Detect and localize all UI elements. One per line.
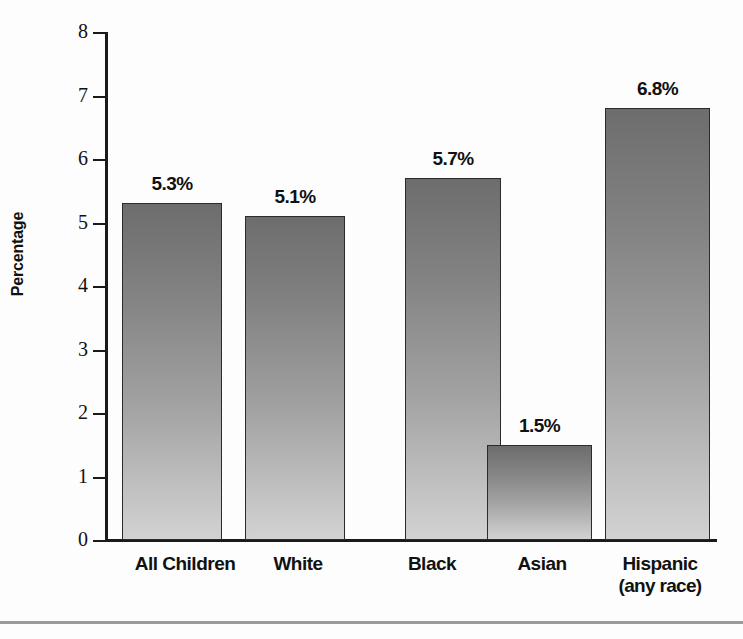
tick-mark (93, 286, 106, 288)
chart-page: 012345678 Percentage 5.3%5.1%5.7%1.5%6.8… (0, 0, 743, 639)
tick-label: 4 (52, 275, 88, 295)
tick-label: 7 (52, 85, 88, 105)
bottom-divider (0, 621, 743, 624)
y-axis-title: Percentage (9, 174, 27, 334)
tick-label: 6 (52, 148, 88, 168)
tick-mark (93, 350, 106, 352)
bar (487, 445, 592, 540)
bar (122, 203, 222, 540)
tick-label: 1 (52, 466, 88, 486)
bar-value-label: 5.3% (122, 173, 222, 195)
tick-label: 3 (52, 339, 88, 359)
x-axis-label: Asian (487, 553, 597, 575)
bar (245, 216, 345, 540)
bar (605, 108, 710, 540)
bar-value-label: 5.1% (245, 186, 345, 208)
x-axis-label: Black (372, 553, 492, 575)
tick-mark (93, 32, 106, 34)
bar-chart: 012345678 Percentage 5.3%5.1%5.7%1.5%6.8… (0, 0, 743, 600)
tick-mark (93, 477, 106, 479)
bar-value-label: 1.5% (487, 415, 592, 437)
tick-mark (93, 223, 106, 225)
x-axis-label: Hispanic(any race) (600, 553, 720, 598)
tick-label: 5 (52, 212, 88, 232)
tick-label: 0 (52, 529, 88, 549)
tick-mark (93, 540, 106, 542)
x-axis-label-subline: (any race) (600, 575, 720, 597)
tick-label: 8 (52, 21, 88, 41)
tick-label: 2 (52, 402, 88, 422)
tick-mark (93, 413, 106, 415)
bar-value-label: 6.8% (605, 78, 710, 100)
x-axis-label: White (238, 553, 358, 575)
tick-mark (93, 159, 106, 161)
bar-value-label: 5.7% (405, 148, 501, 170)
tick-mark (93, 96, 106, 98)
